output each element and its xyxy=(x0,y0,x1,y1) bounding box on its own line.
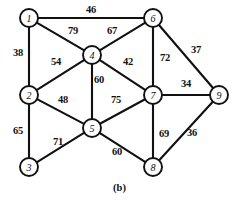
graph-node-3[interactable]: 3 xyxy=(20,158,38,176)
node-label: 6 xyxy=(151,13,156,24)
edge-weight-label: 79 xyxy=(68,26,78,37)
edge-weight-label: 71 xyxy=(53,137,63,148)
edge-weight-label: 48 xyxy=(58,95,68,106)
node-label: 3 xyxy=(26,162,32,173)
node-label: 2 xyxy=(27,90,32,101)
graph-edge xyxy=(99,99,145,124)
edge-weight-label: 38 xyxy=(13,48,23,59)
graph-node-9[interactable]: 9 xyxy=(210,86,228,104)
node-label: 4 xyxy=(90,50,95,61)
edge-weight-label: 46 xyxy=(86,5,96,16)
edge-weight-label: 42 xyxy=(123,57,133,68)
graph-node-1[interactable]: 1 xyxy=(20,9,38,27)
edge-weight-label: 60 xyxy=(112,147,122,158)
graph-node-8[interactable]: 8 xyxy=(144,158,162,176)
graph-node-7[interactable]: 7 xyxy=(144,86,162,104)
node-label: 9 xyxy=(217,90,222,101)
graph-node-5[interactable]: 5 xyxy=(83,119,101,137)
edge-weight-label: 54 xyxy=(51,57,61,68)
graph-figure: 123456789 463879675460427237344875657160… xyxy=(0,0,239,202)
edge-weight-label: 37 xyxy=(191,45,201,56)
edge-weight-label: 72 xyxy=(160,53,170,64)
nodes-group: 123456789 xyxy=(20,9,228,176)
edge-weight-label: 69 xyxy=(159,129,169,140)
edge-weight-label: 36 xyxy=(187,128,197,139)
node-label: 1 xyxy=(27,13,32,24)
graph-node-4[interactable]: 4 xyxy=(83,46,101,64)
edge-weight-label: 65 xyxy=(13,126,23,137)
node-label: 8 xyxy=(151,162,156,173)
graph-node-6[interactable]: 6 xyxy=(144,9,162,27)
edge-weight-label: 75 xyxy=(111,95,121,106)
edge-weight-label: 60 xyxy=(94,75,104,86)
graph-node-2[interactable]: 2 xyxy=(20,86,38,104)
figure-caption: (b) xyxy=(0,182,239,193)
edge-weight-label: 34 xyxy=(181,79,191,90)
graph-edge xyxy=(99,133,146,163)
node-label: 5 xyxy=(90,123,95,134)
edge-weight-label: 67 xyxy=(107,26,117,37)
